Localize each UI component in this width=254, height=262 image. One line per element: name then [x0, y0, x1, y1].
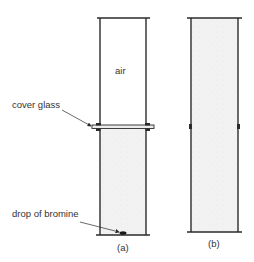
caption-a: (a)	[117, 243, 129, 253]
jar-b-joint-left	[189, 124, 192, 129]
jar-b-interior	[192, 19, 238, 232]
cover-glass-label: cover glass	[12, 100, 60, 110]
cover-glass-leader-line	[62, 110, 91, 126]
bromine-drop	[120, 231, 127, 235]
drop-of-bromine-label: drop of bromine	[12, 209, 79, 219]
caption-b: (b)	[208, 239, 220, 249]
gas-jar-a	[92, 18, 154, 235]
jar-a-upper-flange-right	[145, 123, 150, 126]
cover-glass	[92, 125, 154, 129]
diagram-canvas	[0, 0, 254, 262]
air-label: air	[115, 66, 126, 76]
jar-b-joint-right	[237, 124, 240, 129]
gas-jar-b	[187, 18, 242, 232]
jar-a-upper-flange-left	[96, 123, 101, 126]
jar-a-lower-interior	[101, 129, 146, 235]
